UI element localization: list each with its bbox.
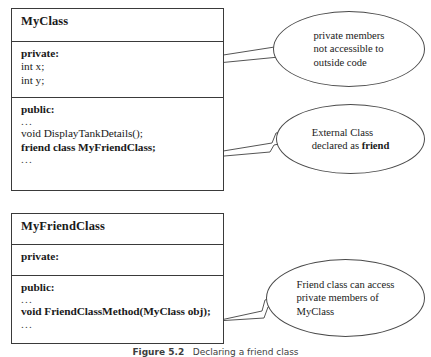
callout-external-friend: External Class declared as friend xyxy=(276,104,425,174)
access-label-private: private: xyxy=(21,250,214,263)
class-name-label: MyFriendClass xyxy=(21,219,214,234)
callout-external-friend-keyword: friend xyxy=(362,140,390,151)
class-header-myclass: MyClass xyxy=(12,9,223,42)
class-section-private-myclass: private: int x; int y; xyxy=(12,42,223,98)
member-int-y: int y; xyxy=(21,74,214,87)
member-friendclassmethod: void FriendClassMethod(MyClass obj); xyxy=(21,305,214,318)
member-friend-class-declaration: friend class MyFriendClass; xyxy=(21,141,214,154)
callout-private-members-text: private members not accessible to outsid… xyxy=(308,29,391,69)
callout-private-members: private members not accessible to outsid… xyxy=(273,11,425,87)
access-label-private: private: xyxy=(21,47,214,60)
ellipsis-leading: ... xyxy=(21,294,214,305)
callout-friend-access-text: Friend class can access private members … xyxy=(291,278,401,318)
access-label-public: public: xyxy=(21,281,214,294)
class-section-private-myfriendclass: private: xyxy=(12,245,223,276)
access-label-public: public: xyxy=(21,103,214,116)
member-displaytankdetails: void DisplayTankDetails(); xyxy=(21,127,214,140)
ellipsis-leading: ... xyxy=(21,116,214,127)
figure-caption-text: Declaring a friend class xyxy=(193,347,299,357)
figure-caption-number: Figure 5.2 xyxy=(132,347,184,357)
ellipsis-trailing: ... xyxy=(21,154,214,165)
callout-friend-access: Friend class can access private members … xyxy=(266,259,425,337)
figure-caption: Figure 5.2 Declaring a friend class xyxy=(0,347,431,357)
ellipsis-trailing: ... xyxy=(21,319,214,330)
class-header-myfriendclass: MyFriendClass xyxy=(12,214,223,245)
class-box-myfriendclass: MyFriendClass private: public: ... void … xyxy=(11,213,224,344)
class-section-public-myclass: public: ... void DisplayTankDetails(); f… xyxy=(12,98,223,192)
class-section-public-myfriendclass: public: ... void FriendClassMethod(MyCla… xyxy=(12,276,223,345)
callout-external-friend-text: External Class declared as friend xyxy=(306,126,396,153)
class-name-label: MyClass xyxy=(21,14,214,29)
member-int-x: int x; xyxy=(21,60,214,73)
class-box-myclass: MyClass private: int x; int y; public: .… xyxy=(11,8,224,191)
